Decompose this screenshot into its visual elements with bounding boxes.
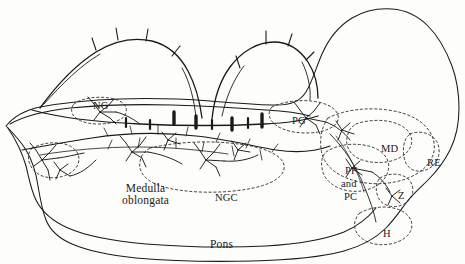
label-md: MD (381, 143, 398, 154)
label-pons: Pons (210, 238, 233, 250)
label-h: H (383, 228, 391, 239)
label-medulla-oblongata: Medulla oblongata (122, 182, 169, 206)
label-re: RE (427, 157, 441, 168)
diagram-linework (0, 0, 465, 264)
label-ng: NG (93, 100, 109, 111)
label-pg: PG (292, 115, 306, 126)
label-pf: PF (345, 165, 357, 176)
brainstem-reticular-formation-diagram: NG PG MD RE PF and PC Z H NGC Medulla ob… (0, 0, 465, 264)
label-z: Z (398, 190, 405, 201)
label-pc: PC (344, 191, 357, 202)
label-ngc: NGC (215, 192, 238, 203)
label-and: and (341, 178, 357, 189)
